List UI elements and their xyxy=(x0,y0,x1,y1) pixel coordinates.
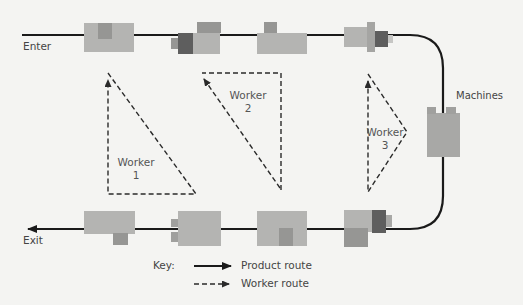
enter-label: Enter xyxy=(23,40,51,52)
key-product-route-label: Product route xyxy=(241,259,312,271)
machines-label: Machines xyxy=(456,90,503,102)
worker-2-label-line2: 2 xyxy=(223,102,273,115)
worker-3-label-line1: Worker xyxy=(360,126,410,139)
machine-right xyxy=(427,107,460,157)
worker-3-label: Worker 3 xyxy=(360,126,410,152)
key-title: Key: xyxy=(153,259,175,271)
worker-2-label-line1: Worker xyxy=(223,89,273,102)
machine-bottom-1 xyxy=(84,211,135,245)
machine-top-4 xyxy=(344,22,393,52)
machine-bottom-2 xyxy=(171,211,221,246)
machine-bottom-4 xyxy=(344,210,392,247)
machine-top-1 xyxy=(84,23,134,52)
machine-bottom-3 xyxy=(257,211,307,246)
key-worker-route-label: Worker route xyxy=(241,277,309,289)
exit-label: Exit xyxy=(23,234,43,246)
worker-3-label-line2: 3 xyxy=(360,139,410,152)
machine-top-3 xyxy=(257,22,307,54)
worker-1-label-line1: Worker xyxy=(111,156,161,169)
worker-1-label-line2: 1 xyxy=(111,169,161,182)
machine-top-2 xyxy=(171,22,221,54)
worker-1-label: Worker 1 xyxy=(111,156,161,182)
worker-2-label: Worker 2 xyxy=(223,89,273,115)
